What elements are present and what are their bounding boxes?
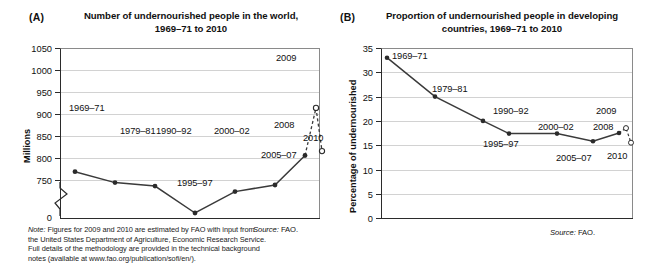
panel-a-point-label-1979-81: 1979–81	[120, 126, 156, 136]
panel-b-data-series	[381, 48, 633, 219]
panel-b-ytick-25: 25	[353, 93, 373, 103]
panel-b-point-label-1979-81: 1979–81	[432, 84, 468, 94]
panel-b-point-label-1995-97: 1995–97	[483, 139, 519, 149]
panel-a-title: Number of undernourished people in the w…	[66, 10, 316, 35]
panel-a-title-line2: 1969–71 to 2010	[155, 23, 227, 34]
panel-b-ytick-5: 5	[353, 190, 373, 200]
panel-a: (A) Number of undernourished people in t…	[0, 0, 335, 268]
panel-a-point-label-2008: 2008	[274, 120, 294, 130]
panel-b-point-label-1990-92: 1990–92	[493, 106, 529, 116]
note-label: Note:	[28, 225, 45, 234]
panel-a-point-label-1990-92: 1990–92	[156, 126, 192, 136]
panel-a-ytick-0: 0	[24, 213, 52, 223]
panel-a-point-label-1969-71: 1969–71	[69, 103, 105, 113]
note-line2: the United States Department of Agricult…	[28, 235, 266, 244]
panel-a-point-label-2005-07: 2005–07	[261, 150, 297, 160]
panel-a-ytick-1050: 1050	[24, 44, 52, 54]
panel-b-letter: (B)	[340, 11, 355, 23]
panel-b-point-label-2009: 2009	[596, 106, 616, 116]
panel-a-ytick-950: 950	[24, 88, 52, 98]
panel-b-ytick-15: 15	[353, 141, 373, 151]
panel-b: (B) Proportion of undernourished people …	[335, 0, 653, 268]
panel-a-point-label-2010: 2010	[303, 133, 323, 143]
panel-b-point-label-2005-07: 2005–07	[556, 153, 592, 163]
panel-a-point-label-2000-02: 2000–02	[214, 126, 250, 136]
source-value: FAO.	[279, 225, 298, 234]
panel-b-ytick-10: 10	[353, 166, 373, 176]
panel-b-source: Source: FAO.	[550, 228, 595, 237]
panel-a-ytick-850: 850	[24, 132, 52, 142]
source-label: Source:	[253, 225, 279, 234]
note-line4: notes (available at www.fao.org/publicat…	[28, 254, 196, 263]
panel-a-point-label-2009: 2009	[276, 53, 296, 63]
panel-a-ytick-750: 750	[24, 176, 52, 186]
panel-b-title-line1: Proportion of undernourished people in d…	[386, 10, 618, 21]
panel-a-source: Source: FAO.	[253, 225, 298, 234]
panel-a-ytick-900: 900	[24, 110, 52, 120]
panel-a-ytick-800: 800	[24, 154, 52, 164]
panel-b-point-label-2000-02: 2000–02	[538, 122, 574, 132]
panel-a-point-label-1995-97: 1995–97	[177, 178, 213, 188]
panel-b-title: Proportion of undernourished people in d…	[367, 10, 637, 35]
panel-b-ytick-35: 35	[353, 44, 373, 54]
note-line1: Figures for 2009 and 2010 are estimated …	[45, 225, 254, 234]
source-value: FAO.	[576, 228, 595, 237]
panel-b-point-label-2010: 2010	[607, 151, 627, 161]
panel-b-ytick-0: 0	[353, 214, 373, 224]
note-line3: Full details of the methodology are prov…	[28, 244, 260, 253]
source-label: Source:	[550, 228, 576, 237]
panel-a-title-line1: Number of undernourished people in the w…	[84, 10, 298, 21]
panel-b-point-label-2008: 2008	[593, 122, 613, 132]
panel-b-point-label-1969-71: 1969–71	[392, 51, 428, 61]
panel-b-ytick-30: 30	[353, 68, 373, 78]
figure-undernourishment: (A) Number of undernourished people in t…	[0, 0, 653, 268]
panel-a-letter: (A)	[29, 11, 44, 23]
panel-a-ytick-1000: 1000	[24, 66, 52, 76]
panel-b-ytick-20: 20	[353, 117, 373, 127]
panel-b-title-line2: countries, 1969–71 to 2010	[442, 23, 562, 34]
